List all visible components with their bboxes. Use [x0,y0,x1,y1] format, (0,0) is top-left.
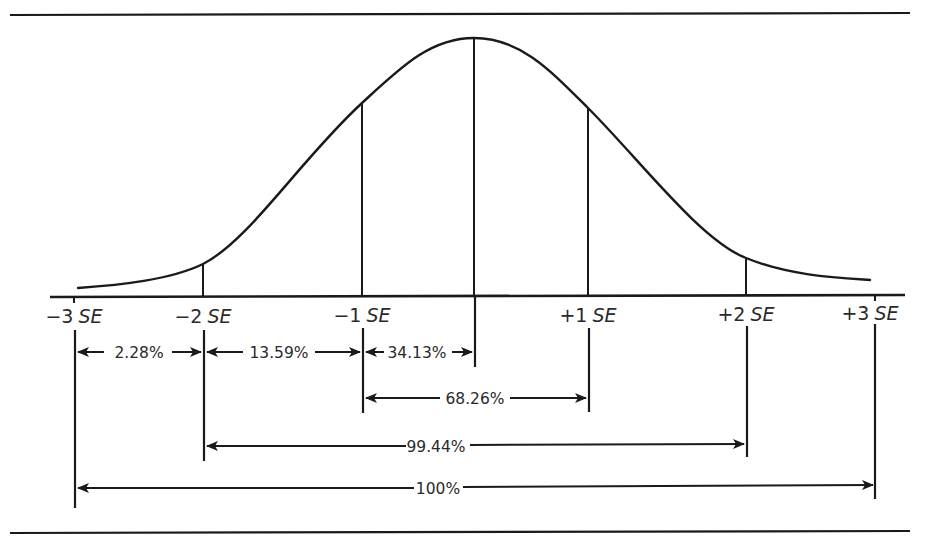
interval-34-13: 34.13% [366,344,472,362]
top-rule [10,13,910,15]
interval-2-28: 2.28% [78,344,201,362]
interval-100: 100% [78,480,873,498]
svg-text:34.13%: 34.13% [387,344,446,362]
tick-label-m3: −3SE [45,305,102,327]
normal-distribution-diagram: −3SE −2SE −1SE +1SE +2SE +3SE 2.28% 13.5… [0,0,928,548]
interval-68-26: 68.26% [366,390,586,408]
bottom-rule [10,531,910,533]
tick-label-p1: +1SE [559,304,616,326]
tick-label-p2: +2SE [717,303,774,325]
svg-text:2.28%: 2.28% [114,344,163,362]
tick-label-p3: +3SE [841,302,898,324]
interval-13-59: 13.59% [207,344,360,362]
x-axis [50,295,905,297]
interval-99-44: 99.44% [207,438,744,456]
svg-text:68.26%: 68.26% [445,390,504,408]
tick-label-m1: −1SE [333,304,390,326]
tick-label-m2: −2SE [174,305,231,327]
svg-text:100%: 100% [416,480,460,498]
svg-text:99.44%: 99.44% [406,438,465,456]
svg-text:13.59%: 13.59% [249,344,308,362]
